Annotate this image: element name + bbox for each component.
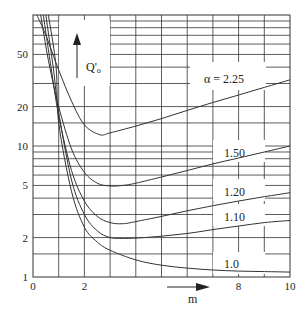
x-label-text: m — [188, 292, 198, 306]
y-tick-label: 5 — [23, 179, 29, 191]
curve-label-1-20: 1.20 — [224, 185, 245, 199]
curve-label-2-25: α = 2.25 — [204, 72, 244, 86]
y-tick-label: 2 — [23, 232, 29, 244]
label-mask — [59, 20, 110, 86]
x-axis-label: m — [167, 283, 210, 306]
x-tick-label: 0 — [30, 280, 36, 292]
y-tick-label: 10 — [17, 140, 29, 152]
x-tick-label: 2 — [82, 280, 88, 292]
y-tick-label: 20 — [17, 101, 29, 113]
curve-label-1-0: 1.0 — [224, 257, 239, 271]
y-tick-label: 1 — [23, 271, 29, 283]
x-tick-label: 8 — [236, 280, 242, 292]
curve-label-1-10: 1.10 — [224, 210, 245, 224]
curve-label-1-50: 1.50 — [224, 146, 245, 160]
y-tick-label: 50 — [17, 48, 29, 60]
x-tick-label: 10 — [285, 280, 297, 292]
chart: 02810125102050 Q'o m α = 2.25 1.50 1.20 … — [0, 0, 305, 315]
x-arrowhead-icon — [196, 283, 210, 291]
